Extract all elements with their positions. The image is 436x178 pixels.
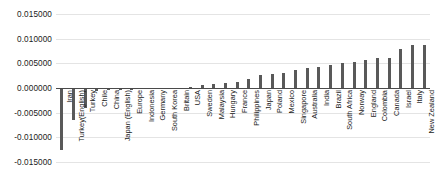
x-axis-tick-label: Norway	[357, 90, 366, 115]
x-axis-tick-label: Italy	[415, 90, 424, 104]
y-axis-tick-label: 0.000000	[17, 84, 52, 93]
y-axis-tick-label: 0.015000	[17, 10, 52, 19]
bar	[317, 67, 320, 88]
x-axis-tick-label: Sweden	[205, 90, 214, 117]
bar	[388, 58, 391, 88]
x-axis-tick-label: New Zealand	[427, 90, 436, 134]
bar	[259, 75, 262, 88]
y-axis-tick-label: -0.010000	[14, 133, 52, 142]
x-axis-tick-label: England	[369, 90, 378, 117]
x-axis-tick-label: Malaysia	[217, 90, 226, 119]
x-axis-tick-label: Britain	[182, 90, 191, 111]
bar	[364, 60, 367, 88]
y-axis-tick-label: -0.005000	[14, 108, 52, 117]
x-axis-tick-label: Israel	[404, 90, 413, 108]
bar	[399, 49, 402, 88]
x-axis-tick-label: Canada	[392, 90, 401, 116]
x-axis-tick-label: Indonesia	[147, 90, 156, 122]
x-axis-tick-label: Turkey(English)	[77, 90, 86, 141]
bar	[282, 73, 285, 88]
x-axis-tick-label: Iran	[65, 90, 74, 103]
x-axis-tick-label: Germany	[158, 90, 167, 120]
bar	[329, 65, 332, 88]
x-axis-tick-label: Poland	[275, 90, 284, 113]
x-axis-tick-label: Hungary	[228, 90, 237, 118]
x-axis-tick-label: Australia	[310, 90, 319, 119]
bar	[353, 62, 356, 88]
bar	[294, 70, 297, 88]
x-axis-tick-label: South Korea	[170, 90, 179, 131]
x-axis-tick-label: Colombia	[380, 90, 389, 121]
x-axis-tick-label: South Africa	[345, 90, 354, 130]
bar	[423, 45, 426, 88]
x-axis-tick-label: USA	[193, 90, 202, 105]
bar	[411, 45, 414, 88]
x-axis-tick-label: China	[112, 90, 121, 109]
x-axis-tick-label: Mexico	[287, 90, 296, 113]
bar	[247, 79, 250, 88]
x-axis-category-labels: IranTurkey(English)TurkeyChileChinaJapan…	[56, 88, 430, 178]
y-axis-tick-labels: 0.0150000.0100000.0050000.000000-0.00500…	[0, 0, 56, 178]
bar	[341, 63, 344, 88]
y-axis-tick-label: 0.010000	[17, 34, 52, 43]
x-axis-tick-label: Philippines	[252, 90, 261, 126]
y-axis-tick-label: -0.015000	[14, 158, 52, 167]
x-axis-tick-label: Brazil	[334, 90, 343, 108]
bar	[376, 58, 379, 88]
bar	[306, 68, 309, 88]
x-axis-tick-label: India	[322, 90, 331, 106]
x-axis-tick-label: Europe	[135, 90, 144, 114]
x-axis-tick-label: Japan	[264, 90, 273, 110]
x-axis-tick-label: Turkey	[88, 90, 97, 112]
x-axis-tick-label: Singapore	[299, 90, 308, 124]
x-axis-tick-label: Chile	[100, 90, 109, 107]
y-axis-tick-label: 0.005000	[17, 59, 52, 68]
bar	[271, 74, 274, 88]
x-axis-tick-label: Japan (English)	[123, 90, 132, 141]
x-axis-tick-label: France	[240, 90, 249, 113]
